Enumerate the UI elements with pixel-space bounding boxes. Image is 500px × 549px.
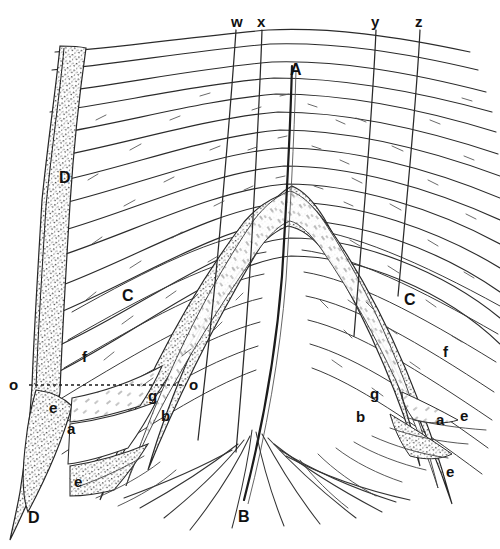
label-bed-f-right: f bbox=[443, 344, 448, 359]
label-bed-e-lower-right: e bbox=[446, 464, 454, 479]
label-bed-D-upper-left: D bbox=[59, 170, 71, 186]
label-bed-b-right: b bbox=[356, 409, 365, 424]
geological-cross-section-figure: w x y z A B o o D C f e a e D g b C f g … bbox=[0, 0, 500, 549]
label-datum-o-right: o bbox=[189, 377, 198, 392]
label-datum-o-left: o bbox=[9, 377, 18, 392]
label-fault-w: w bbox=[231, 14, 243, 29]
label-bed-e-left: e bbox=[49, 400, 57, 415]
label-bed-g-right: g bbox=[370, 386, 379, 401]
label-bed-b-center-left: b bbox=[161, 408, 170, 423]
label-bed-D-lower-left: D bbox=[28, 510, 40, 526]
label-fault-z: z bbox=[415, 14, 423, 29]
cross-section-drawing bbox=[0, 0, 500, 549]
label-bed-a-right: a bbox=[436, 412, 444, 427]
label-fault-x: x bbox=[257, 14, 265, 29]
label-bed-g-center-left: g bbox=[148, 388, 157, 403]
label-axis-B: B bbox=[238, 509, 250, 525]
label-bed-a-left: a bbox=[67, 421, 75, 436]
label-fault-y: y bbox=[371, 14, 379, 29]
label-bed-f-left: f bbox=[82, 349, 87, 364]
label-bed-C-left: C bbox=[122, 288, 134, 304]
label-bed-e-lower-left: e bbox=[74, 474, 82, 489]
label-bed-C-right: C bbox=[404, 292, 416, 308]
label-axis-A: A bbox=[290, 62, 302, 78]
label-bed-e-right: e bbox=[460, 408, 468, 423]
